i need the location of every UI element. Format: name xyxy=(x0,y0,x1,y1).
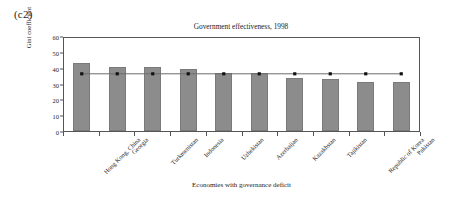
line-marker xyxy=(258,72,261,75)
x-category-label: Turkmenistan xyxy=(170,136,200,166)
line-marker xyxy=(400,72,403,75)
y-tick-label: 60 xyxy=(53,34,59,41)
x-category-label: Tajikistan xyxy=(345,136,368,159)
line-marker xyxy=(116,72,119,75)
line-marker xyxy=(222,72,225,75)
y-tick-label: 20 xyxy=(53,97,59,104)
x-axis-category-labels: Hong Kong, ChinaGeorgiaTurkmenistanIndon… xyxy=(63,133,420,179)
plot-area xyxy=(63,37,420,132)
y-tick-label: 0 xyxy=(56,129,59,136)
y-axis-ticks: 0102030405060 xyxy=(0,37,63,132)
chart-title: Government effectiveness, 1998 xyxy=(60,22,422,31)
x-category-label: Azerbaijan xyxy=(275,136,300,161)
x-category-label: Indonesia xyxy=(202,136,225,159)
figure-panel-c2: (c2) Government effectiveness, 1998 Gini… xyxy=(0,0,463,202)
x-category-label: Uzbekistan xyxy=(239,136,264,161)
line-marker xyxy=(151,72,154,75)
line-series-layer xyxy=(64,38,419,131)
y-tick-label: 30 xyxy=(53,81,59,88)
line-marker xyxy=(329,72,332,75)
x-category-label: Kazakhstan xyxy=(311,136,337,162)
line-marker xyxy=(80,72,83,75)
line-marker xyxy=(293,72,296,75)
y-tick-label: 50 xyxy=(53,49,59,56)
line-marker xyxy=(364,72,367,75)
line-marker xyxy=(187,72,190,75)
y-tick-label: 40 xyxy=(53,65,59,72)
average-line-svg xyxy=(64,38,419,131)
x-axis-title: Economies with governance deficit xyxy=(63,181,420,189)
y-tick-label: 10 xyxy=(53,113,59,120)
x-category-label: Hong Kong, China xyxy=(102,136,141,175)
